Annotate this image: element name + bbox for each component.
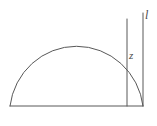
height-label-z: z xyxy=(129,50,133,61)
line-label-l: l xyxy=(145,9,148,21)
geometry-figure: l z xyxy=(0,0,157,126)
figure-canvas xyxy=(0,0,157,126)
semicircular-arc xyxy=(10,46,143,106)
